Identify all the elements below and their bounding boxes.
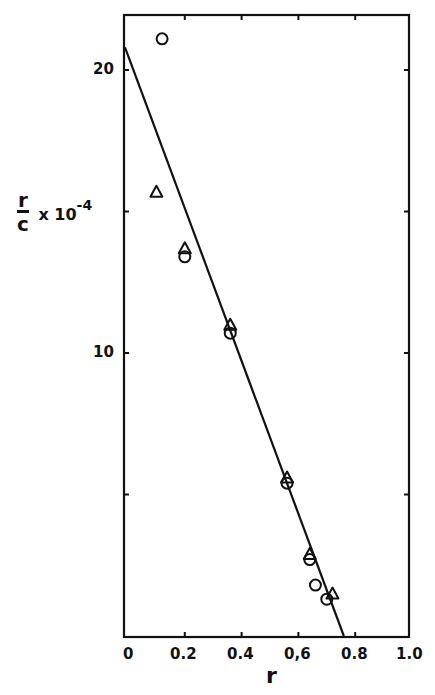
x-tick-label-0.2: 0.2 bbox=[170, 645, 197, 663]
y-axis-numerator: r bbox=[17, 190, 29, 213]
y-tick-label-10: 10 bbox=[93, 343, 114, 361]
data-point-circle bbox=[310, 580, 321, 591]
y-axis-multiplier-base: x 10 bbox=[38, 205, 76, 224]
x-axis-label: r bbox=[266, 663, 277, 688]
y-axis-label: r c x 10-4 bbox=[17, 190, 92, 235]
y-tick-label-20: 20 bbox=[93, 60, 114, 78]
chart-plot bbox=[0, 0, 435, 695]
plot-frame bbox=[124, 15, 409, 637]
y-axis-multiplier: x 10-4 bbox=[38, 201, 92, 224]
x-tick-label-0.4: 0.4 bbox=[227, 645, 254, 663]
data-point-triangle bbox=[150, 186, 162, 197]
y-axis-exponent: -4 bbox=[77, 197, 93, 213]
y-axis-denominator: c bbox=[17, 213, 29, 235]
x-tick-label-0.8: 0.8 bbox=[341, 645, 368, 663]
y-axis-fraction: r c bbox=[17, 190, 29, 235]
fit-line bbox=[125, 47, 344, 636]
data-point-circle bbox=[157, 33, 168, 44]
x-tick-label-0: 0 bbox=[123, 645, 133, 663]
x-tick-label-0.6: 0,6 bbox=[284, 645, 311, 663]
x-tick-label-1.0: 1.0 bbox=[396, 645, 423, 663]
